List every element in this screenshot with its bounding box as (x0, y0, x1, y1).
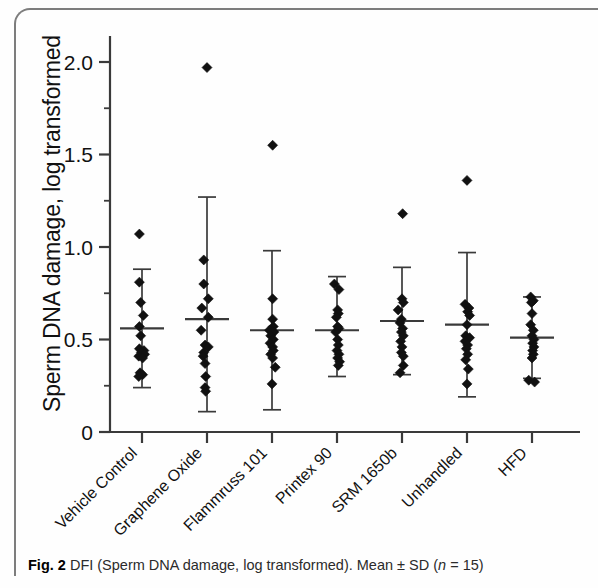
caption-figure-number: Fig. 2 (28, 557, 66, 573)
data-point-marker (462, 320, 472, 330)
data-point-marker (203, 294, 213, 304)
caption-text-b: SD ( (409, 557, 438, 573)
plot-area: Sperm DNA damage, log transformed 00.51.… (0, 0, 598, 552)
data-point-marker (202, 63, 212, 73)
data-point-marker (134, 322, 144, 332)
data-group: HFD (495, 292, 554, 479)
caption-n-italic: n (438, 557, 446, 573)
figure-container: Sperm DNA damage, log transformed 00.51.… (0, 0, 598, 588)
data-group: Unhandled (398, 175, 489, 510)
data-point-marker (462, 175, 472, 185)
y-axis-tick-label: 2.0 (64, 51, 93, 74)
data-point-marker (267, 379, 277, 389)
scatter-plot-svg: 00.51.01.52.0Vehicle ControlGraphene Oxi… (0, 0, 598, 552)
data-point-marker (268, 140, 278, 150)
x-axis-category-label: HFD (495, 444, 530, 479)
data-group: Flammruss 101 (180, 140, 294, 534)
data-point-marker (398, 209, 408, 219)
caption-text-c: = 15) (446, 557, 483, 573)
data-point-marker (203, 312, 213, 322)
data-group: Printex 90 (272, 277, 359, 507)
data-point-marker (527, 309, 537, 319)
data-point-marker (196, 325, 206, 335)
data-point-marker (268, 294, 278, 304)
caption-text-a: DFI (Sperm DNA damage, log transformed).… (70, 557, 397, 573)
x-axis-category-label: Printex 90 (272, 444, 335, 507)
data-point-marker (136, 298, 146, 308)
data-group: Vehicle Control (52, 229, 164, 532)
caption-plusminus: ± (397, 557, 409, 573)
data-point-marker (201, 372, 211, 382)
x-axis-category-label: Unhandled (398, 444, 465, 511)
data-point-marker (134, 229, 144, 239)
figure-caption: Fig. 2 DFI (Sperm DNA damage, log transf… (28, 556, 588, 574)
y-axis-tick-label: 0 (81, 421, 93, 444)
data-point-marker (136, 331, 146, 341)
x-axis-category-label: SRM 1650b (328, 444, 400, 516)
data-point-marker (200, 359, 210, 369)
data-point-marker (134, 277, 144, 287)
data-point-marker (463, 364, 473, 374)
data-point-marker (462, 379, 472, 389)
data-point-marker (197, 303, 207, 313)
y-axis-tick-label: 0.5 (64, 328, 93, 351)
data-point-marker (138, 310, 148, 320)
y-axis-tick-label: 1.5 (64, 143, 93, 166)
y-axis-tick-label: 1.0 (64, 236, 93, 259)
